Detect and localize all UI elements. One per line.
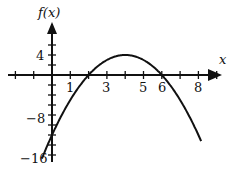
- y-tick-label-neg8: −8: [26, 111, 45, 126]
- y-tick-label-4: 4: [36, 48, 44, 63]
- axes: [8, 22, 222, 162]
- x-axis-label: x: [219, 52, 227, 67]
- x-tick-label-1: 1: [66, 80, 74, 95]
- y-axis-label: f(x): [37, 5, 60, 20]
- x-tick-label-5: 5: [139, 80, 147, 95]
- function-curve: [42, 55, 201, 159]
- x-tick-label-8: 8: [194, 80, 202, 95]
- x-tick-label-6: 6: [158, 80, 166, 95]
- y-tick-label-neg16: −16: [20, 151, 47, 166]
- y-axis-arrow-icon: [47, 22, 57, 34]
- x-axis-arrow-icon: [208, 69, 222, 81]
- chart: f(x) x 1 3 5 6 8 4 −8 −16: [0, 0, 240, 178]
- x-tick-label-3: 3: [102, 80, 110, 95]
